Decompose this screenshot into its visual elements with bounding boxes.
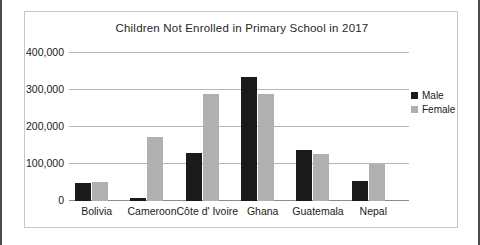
bar-female [369,164,385,201]
bar-group: Côte d' Ivoire [180,53,235,201]
bar-group: Cameroon [124,53,179,201]
bar-male [296,150,312,201]
bar-male [352,181,368,201]
bar-female [92,182,108,201]
x-axis-category-label: Côte d' Ivoire [177,205,239,217]
bar-male [130,198,146,201]
y-axis-tick-label: 0 [58,194,64,206]
legend-label: Male [422,90,444,101]
bar-male [241,77,257,201]
legend-label: Female [422,104,455,115]
x-axis-category-label: Ghana [247,205,279,217]
bar-male [186,153,202,201]
bar-female [313,154,329,201]
bar-group: Ghana [235,53,290,201]
bar-male [75,183,91,201]
legend-item: Female [411,104,455,115]
x-axis-category-label: Bolivia [81,205,112,217]
bar-series-container: BoliviaCameroonCôte d' IvoireGhanaGuatem… [69,53,401,201]
bar-female [147,137,163,201]
bar-female [203,94,219,201]
legend-swatch-icon [411,106,418,113]
x-axis-category-label: Nepal [360,205,387,217]
chart-title: Children Not Enrolled in Primary School … [25,22,459,34]
legend-item: Male [411,90,455,101]
bar-group: Nepal [346,53,401,201]
legend-swatch-icon [411,92,418,99]
y-axis-tick-label: 200,000 [26,120,64,132]
bar-group: Bolivia [69,53,124,201]
x-axis-category-label: Cameroon [127,205,176,217]
y-axis-tick-label: 100,000 [26,157,64,169]
chart-frame: Children Not Enrolled in Primary School … [24,11,458,228]
y-axis-tick-label: 300,000 [26,83,64,95]
bar-group: Guatemala [290,53,345,201]
chart-legend: MaleFemale [411,90,455,118]
chart-screenshot: Children Not Enrolled in Primary School … [0,0,480,245]
plot-area: 0100,000200,000300,000400,000 BoliviaCam… [69,53,401,201]
x-axis-category-label: Guatemala [292,205,343,217]
bar-female [258,94,274,201]
y-axis-tick-label: 400,000 [26,46,64,58]
